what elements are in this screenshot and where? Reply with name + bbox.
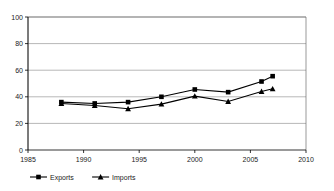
x-tick-label-1995: 1995	[131, 156, 147, 163]
x-tick-label-2000: 2000	[187, 156, 203, 163]
data-point-exports-2003	[226, 90, 231, 95]
y-tick-label-40: 40	[15, 93, 23, 100]
line-chart: 020406080100198519901995200020052010Expo…	[0, 0, 334, 191]
data-point-imports-2007	[270, 86, 276, 91]
x-tick-label-1990: 1990	[76, 156, 92, 163]
legend-label-exports: Exports	[50, 174, 74, 182]
x-tick-label-2010: 2010	[298, 156, 314, 163]
x-tick-label-1985: 1985	[20, 156, 36, 163]
data-point-exports-2000	[193, 87, 198, 92]
y-tick-label-80: 80	[15, 40, 23, 47]
x-tick-label-2005: 2005	[243, 156, 259, 163]
chart-canvas: 020406080100198519901995200020052010Expo…	[0, 0, 334, 191]
data-point-exports-1994	[126, 100, 131, 105]
y-tick-label-0: 0	[19, 147, 23, 154]
legend-marker-exports	[36, 175, 41, 180]
series-line-exports	[61, 76, 272, 103]
data-point-exports-1997	[159, 95, 164, 100]
data-point-exports-2006	[259, 79, 264, 84]
data-point-exports-2007	[270, 74, 275, 79]
legend-label-imports: Imports	[112, 174, 136, 182]
y-tick-label-20: 20	[15, 120, 23, 127]
y-tick-label-60: 60	[15, 67, 23, 74]
y-tick-label-100: 100	[11, 14, 23, 21]
